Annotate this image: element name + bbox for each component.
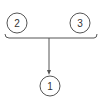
merge-brace: [5, 34, 97, 38]
node-2: 2: [7, 13, 27, 33]
node-3-label: 3: [77, 18, 83, 29]
node-2-label: 2: [14, 18, 20, 29]
node-1: 1: [40, 76, 60, 96]
diagram-canvas: 2 3 1: [0, 0, 104, 104]
node-3: 3: [70, 13, 90, 33]
node-1-label: 1: [47, 81, 53, 92]
merge-diagram: 2 3 1: [0, 0, 104, 104]
arrowhead-icon: [47, 70, 51, 75]
